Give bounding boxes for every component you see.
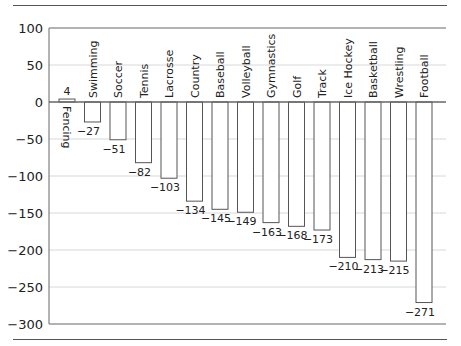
bar-value-label: −271: [405, 306, 435, 319]
bar-value-label: −82: [128, 166, 151, 179]
category-label: Track: [316, 69, 329, 99]
bar-football: [416, 102, 432, 303]
y-tick-label: 100: [18, 21, 43, 36]
category-label: Fencing: [60, 106, 73, 149]
bar-track: [314, 102, 330, 230]
bar-tennis: [136, 102, 152, 163]
bar-basketball: [365, 102, 381, 260]
y-axis: 100500−50−100−150−200−250−300: [7, 21, 43, 332]
y-tick-label: 0: [35, 95, 43, 110]
category-label: Soccer: [112, 60, 125, 98]
category-label: Lacrosse: [163, 50, 176, 98]
bar-value-label: 4: [64, 85, 71, 98]
y-tick-label: −150: [7, 206, 43, 221]
category-label: Gymnastics: [265, 33, 278, 98]
bar-value-label: −51: [102, 143, 125, 156]
bar-swimming: [85, 102, 101, 122]
category-label: Football: [418, 54, 431, 98]
category-label: Volleyball: [240, 45, 253, 98]
category-label: Wrestling: [393, 46, 406, 98]
bar-ice-hockey: [340, 102, 356, 257]
bar-baseball: [212, 102, 228, 209]
bar-value-label: −27: [77, 125, 100, 138]
y-tick-label: −250: [7, 280, 43, 295]
bar-value-label: −173: [303, 233, 333, 246]
bar-gymnastics: [263, 102, 279, 223]
bar-lacrosse: [161, 102, 177, 178]
bar-soccer: [110, 102, 126, 140]
y-tick-label: −200: [7, 243, 43, 258]
bar-value-label: −215: [379, 264, 409, 277]
bar-volleyball: [238, 102, 254, 212]
y-tick-label: 50: [26, 58, 43, 73]
category-label: Swimming: [87, 41, 100, 98]
bar-country: [187, 102, 203, 201]
category-label: Ice Hockey: [342, 38, 355, 98]
bar-value-label: −103: [150, 181, 180, 194]
category-label: Basketball: [367, 41, 380, 98]
bar-wrestling: [391, 102, 407, 261]
category-label: Baseball: [214, 51, 227, 98]
y-tick-label: −100: [7, 169, 43, 184]
bar-chart: 100500−50−100−150−200−250−300 4Fencing−2…: [0, 0, 461, 346]
bar-golf: [289, 102, 305, 226]
y-tick-label: −300: [7, 317, 43, 332]
category-label: Golf: [291, 75, 304, 98]
y-tick-label: −50: [16, 132, 43, 147]
category-label: Country: [189, 54, 202, 98]
category-label: Tennis: [138, 63, 151, 99]
